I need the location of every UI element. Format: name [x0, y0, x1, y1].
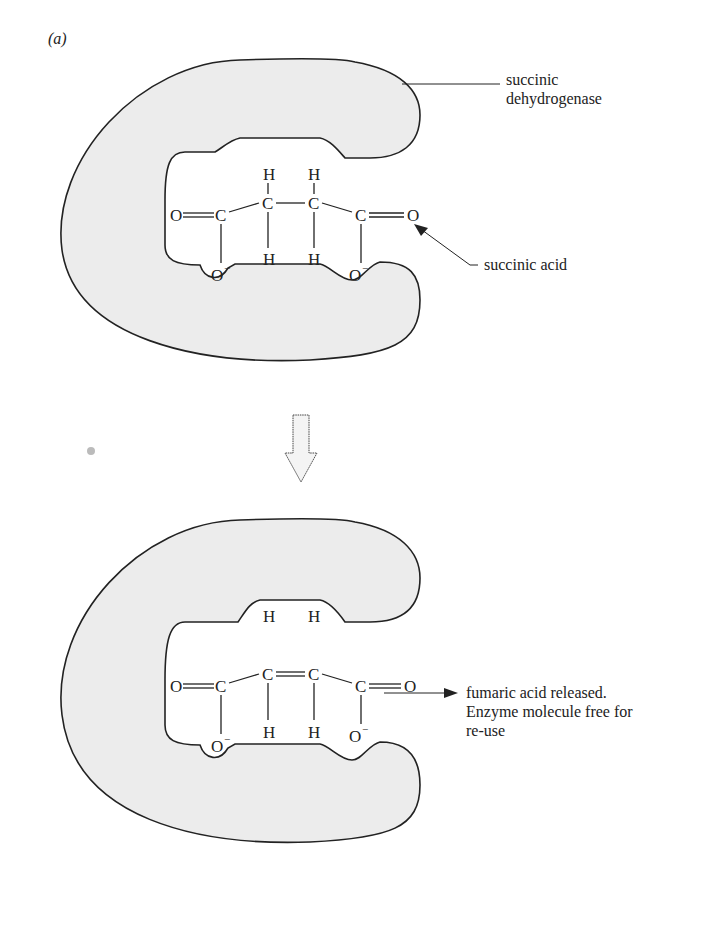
atom-c3: C	[308, 194, 319, 213]
product-label-line2: Enzyme molecule free for	[466, 703, 633, 721]
release-arrow-icon	[384, 688, 458, 698]
atom-h-top-2: H	[308, 165, 320, 184]
free-h-1: H	[263, 607, 275, 626]
charge-2: −	[362, 723, 368, 735]
atom-o-right: O	[407, 206, 419, 225]
atom-c1: C	[215, 206, 226, 225]
enzyme-label-line1: succinic	[506, 71, 558, 88]
atom-o-left: O	[170, 206, 182, 225]
atom-h-bot-2: H	[308, 250, 320, 269]
atom-c3: C	[308, 665, 319, 684]
substrate-pointer	[414, 224, 478, 265]
atom-o-minus-2: O	[349, 727, 361, 746]
panel-label: (a)	[48, 30, 67, 48]
atom-o-minus-2: O	[349, 266, 361, 285]
atom-c1: C	[215, 677, 226, 696]
stray-dot	[87, 447, 95, 455]
atom-c2: C	[262, 194, 273, 213]
atom-h-bot-1: H	[263, 250, 275, 269]
product-label-line1: fumaric acid released.	[466, 684, 607, 701]
atom-h-bot-1: H	[263, 723, 275, 742]
free-h-2: H	[308, 607, 320, 626]
enzyme-label-line2: dehydrogenase	[506, 90, 602, 108]
atom-o-minus-1: O	[211, 266, 223, 285]
charge-1: −	[224, 733, 230, 745]
atom-c2: C	[262, 665, 273, 684]
charge-2: −	[362, 262, 368, 274]
charge-1: −	[224, 262, 230, 274]
down-arrow-icon	[285, 415, 317, 482]
atom-c4: C	[355, 206, 366, 225]
atom-h-top-1: H	[263, 165, 275, 184]
atom-o-minus-1: O	[211, 737, 223, 756]
atom-o-left: O	[170, 677, 182, 696]
atom-c4: C	[355, 677, 366, 696]
substrate-label: succinic acid	[484, 256, 567, 273]
product-label-line3: re-use	[466, 722, 505, 739]
atom-h-bot-2: H	[308, 723, 320, 742]
